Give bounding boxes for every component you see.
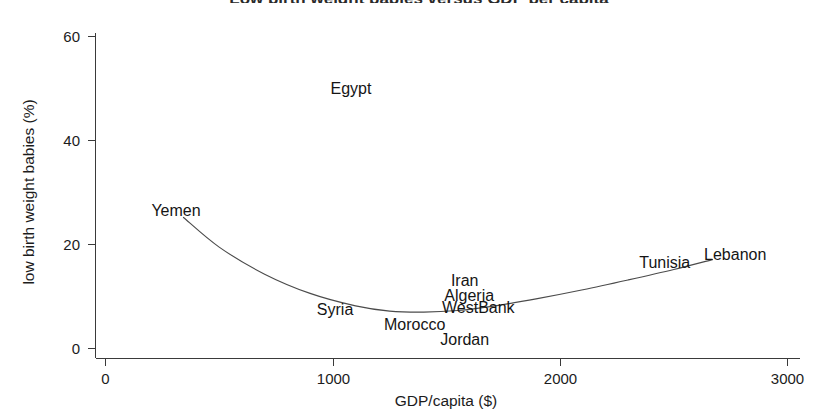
y-tick-label-40: 40 [63,132,80,149]
x-tick-label-2000: 2000 [544,370,577,387]
y-tick-label-20: 20 [63,236,80,253]
x-axis-title: GDP/capita ($) [395,392,498,409]
point-label-lebanon: Lebanon [704,246,766,263]
y-axis-title: low birth weight babies (%) [20,99,37,284]
x-tick-label-1000: 1000 [317,370,350,387]
y-tick-label-0: 0 [72,340,80,357]
point-label-egypt: Egypt [331,80,372,97]
x-tick-label-3000: 3000 [771,370,804,387]
x-axis-ticks [106,359,788,367]
point-label-tunisia: Tunisia [639,254,690,271]
point-label-morocco: Morocco [384,316,445,333]
y-axis-ticks [88,37,96,349]
point-label-jordan: Jordan [440,331,489,348]
point-label-westbank: WestBank [442,299,516,316]
chart-figure: Low birth weight babies versus GDP per c… [0,0,838,414]
country-label-layer: EgyptYemenLebanonTunisiaIranAlgeriaSyria… [151,80,766,348]
point-label-syria: Syria [317,301,354,318]
point-label-yemen: Yemen [151,202,200,219]
x-tick-label-0: 0 [101,370,109,387]
y-tick-label-60: 60 [63,28,80,45]
scatter-plot-canvas: 60 40 20 0 0 1000 2000 3000 GDP/capita (… [0,0,838,414]
